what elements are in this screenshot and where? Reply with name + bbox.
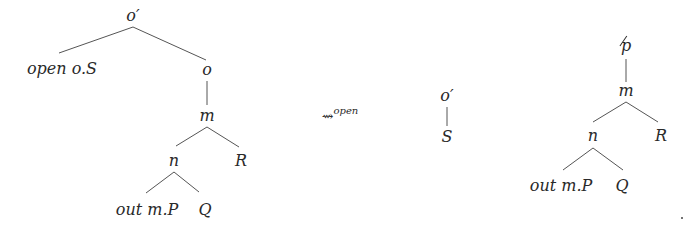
n-node-left: n (169, 153, 179, 169)
r-node-right: R (655, 128, 667, 144)
n-node-right: n (588, 128, 598, 144)
middle-root-node: o′ (440, 88, 453, 104)
q-node-right: Q (615, 178, 628, 194)
squiggly-arrow-icon: ⇝ (322, 108, 334, 124)
p-struck-node: p (621, 38, 631, 54)
transition-label: open (333, 105, 358, 116)
o-node: o (202, 62, 212, 78)
r-node-left: R (235, 153, 247, 169)
right-root-node: p (621, 38, 631, 54)
m-node-right: m (618, 83, 633, 99)
q-node-left: Q (198, 202, 211, 218)
s-node: S (442, 129, 453, 145)
out-node-right: out m.P (530, 178, 592, 194)
rewrite-arrow: ⇝open (322, 105, 359, 125)
diagram-canvas: o′ open o.S o m n R out m.P Q ⇝open o′ S… (0, 0, 692, 230)
out-node-left: out m.P (116, 202, 178, 218)
left-root-node: o′ (126, 8, 139, 24)
trailing-period (681, 217, 683, 219)
left-leaf-node: open o.S (27, 61, 97, 77)
m-node-left: m (199, 108, 214, 124)
